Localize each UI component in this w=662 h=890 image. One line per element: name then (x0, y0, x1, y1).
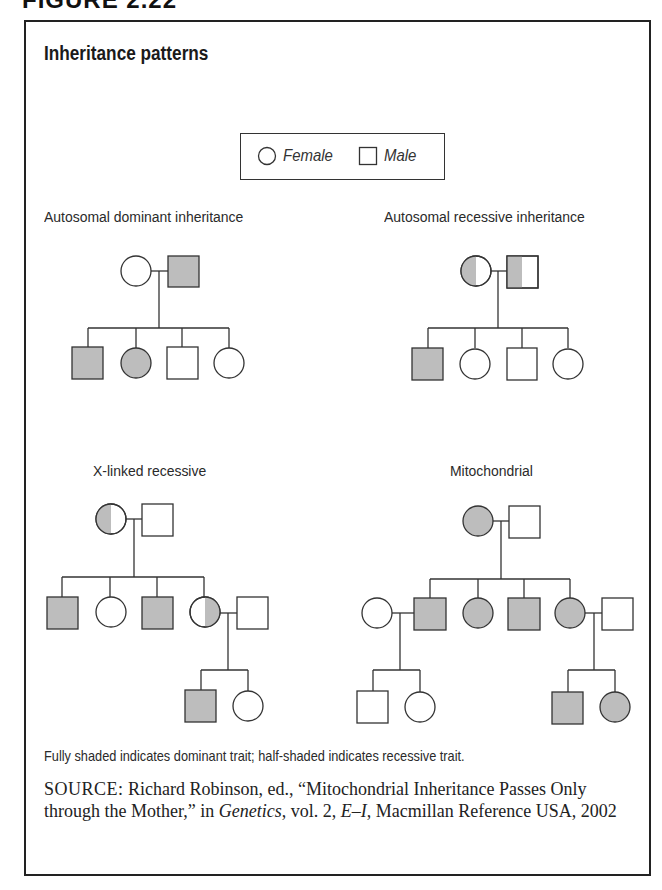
source-book-title: Genetics (219, 801, 282, 821)
pedigree-autosomal-recessive (412, 256, 583, 380)
source-citation: SOURCE: Richard Robinson, ed., “Mitochon… (44, 778, 644, 822)
source-volume-range: E–I (341, 801, 367, 821)
source-text-3: , Macmillan Reference USA, 2002 (367, 801, 617, 821)
pedigree-autosomal-dominant (72, 256, 244, 379)
male-affected (168, 256, 199, 287)
female-unaffected (121, 256, 151, 286)
source-prefix: SOURCE: (44, 779, 124, 799)
pedigree-x-linked-recessive (47, 504, 268, 722)
source-text-2: , vol. 2, (282, 801, 341, 821)
shading-note: Fully shaded indicates dominant trait; h… (44, 748, 465, 764)
pedigree-mitochondrial (357, 506, 633, 724)
